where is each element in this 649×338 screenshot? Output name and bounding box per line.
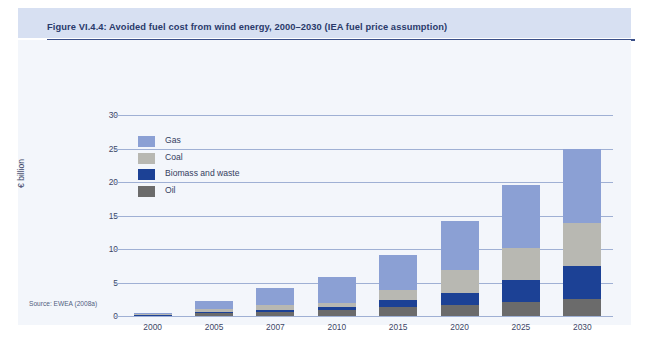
figure-title: Figure VI.4.4: Avoided fuel cost from wi… xyxy=(47,22,447,32)
bar-segment-biomass-and-waste[interactable] xyxy=(256,310,294,312)
figure-container: Figure VI.4.4: Avoided fuel cost from wi… xyxy=(0,0,649,338)
x-tick-label-2015: 2015 xyxy=(368,322,428,332)
bar-2010[interactable] xyxy=(318,277,356,316)
bar-segment-coal[interactable] xyxy=(318,303,356,308)
bar-2000[interactable] xyxy=(134,313,172,316)
x-tick-label-2010: 2010 xyxy=(307,322,367,332)
bar-segment-oil[interactable] xyxy=(502,302,540,316)
y-tick-mark xyxy=(114,316,122,317)
source-note: Source: EWEA (2008a) xyxy=(29,300,97,307)
bar-segment-gas[interactable] xyxy=(318,277,356,302)
chart-panel: € billion 051015202530 20002005200720102… xyxy=(18,40,631,325)
legend-label: Coal xyxy=(165,152,183,162)
bar-2015[interactable] xyxy=(379,255,417,316)
bar-segment-oil[interactable] xyxy=(318,310,356,316)
bar-segment-oil[interactable] xyxy=(441,305,479,316)
y-tick-mark xyxy=(114,216,122,217)
title-banner: Figure VI.4.4: Avoided fuel cost from wi… xyxy=(18,8,631,38)
legend-swatch-icon xyxy=(138,169,155,180)
bar-segment-biomass-and-waste[interactable] xyxy=(379,300,417,307)
gridline xyxy=(122,115,613,116)
x-tick-label-2000: 2000 xyxy=(123,322,183,332)
gridline xyxy=(122,182,613,183)
bar-segment-gas[interactable] xyxy=(441,221,479,270)
bar-segment-coal[interactable] xyxy=(256,305,294,310)
bar-segment-gas[interactable] xyxy=(195,301,233,308)
x-tick-label-2020: 2020 xyxy=(430,322,490,332)
x-tick-label-2005: 2005 xyxy=(184,322,244,332)
gridline xyxy=(122,149,613,150)
bar-2020[interactable] xyxy=(441,221,479,316)
x-tick-label-2007: 2007 xyxy=(245,322,305,332)
legend-label: Oil xyxy=(165,185,176,195)
bar-2030[interactable] xyxy=(563,149,601,317)
bar-segment-gas[interactable] xyxy=(379,255,417,290)
bar-segment-coal[interactable] xyxy=(563,223,601,266)
bar-segment-oil[interactable] xyxy=(256,312,294,316)
plot-area: 20002005200720102015202020252030 xyxy=(122,115,613,316)
bar-segment-coal[interactable] xyxy=(195,309,233,312)
x-tick-label-2030: 2030 xyxy=(552,322,612,332)
bar-segment-coal[interactable] xyxy=(379,290,417,300)
y-tick-mark xyxy=(114,115,122,116)
bar-segment-gas[interactable] xyxy=(563,149,601,223)
bar-segment-biomass-and-waste[interactable] xyxy=(502,280,540,302)
bar-2025[interactable] xyxy=(502,185,540,316)
legend-swatch-icon xyxy=(138,136,155,147)
legend-swatch-icon xyxy=(138,186,155,197)
bar-2007[interactable] xyxy=(256,288,294,316)
bar-segment-biomass-and-waste[interactable] xyxy=(563,266,601,299)
y-tick-mark xyxy=(114,249,122,250)
bar-segment-biomass-and-waste[interactable] xyxy=(195,312,233,313)
y-tick-mark xyxy=(114,182,122,183)
bar-segment-gas[interactable] xyxy=(502,185,540,247)
bar-segment-coal[interactable] xyxy=(134,314,172,315)
y-tick-mark xyxy=(114,149,122,150)
bar-segment-biomass-and-waste[interactable] xyxy=(318,307,356,310)
bar-segment-oil[interactable] xyxy=(195,313,233,316)
bar-segment-oil[interactable] xyxy=(379,307,417,316)
bar-segment-oil[interactable] xyxy=(563,299,601,316)
bar-segment-gas[interactable] xyxy=(134,313,172,314)
bar-segment-coal[interactable] xyxy=(502,248,540,280)
legend-swatch-icon xyxy=(138,153,155,164)
y-axis-title: € billion xyxy=(16,159,26,188)
legend-label: Gas xyxy=(165,135,181,145)
x-axis-baseline xyxy=(122,316,613,317)
y-tick-mark xyxy=(114,283,122,284)
bar-segment-oil[interactable] xyxy=(134,315,172,316)
bar-2005[interactable] xyxy=(195,301,233,316)
bar-segment-gas[interactable] xyxy=(256,288,294,305)
legend-label: Biomass and waste xyxy=(165,168,240,178)
x-tick-label-2025: 2025 xyxy=(491,322,551,332)
bar-segment-coal[interactable] xyxy=(441,270,479,293)
bar-segment-biomass-and-waste[interactable] xyxy=(441,293,479,306)
